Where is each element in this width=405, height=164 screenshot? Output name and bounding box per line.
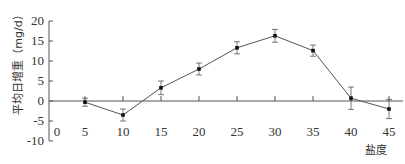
x-tick-label: 40: [345, 124, 358, 139]
data-point: [387, 107, 391, 111]
data-point: [83, 100, 87, 104]
x-tick-label: 35: [307, 124, 320, 139]
y-tick-label: 5: [38, 73, 45, 88]
x-tick-label: 10: [117, 124, 130, 139]
y-tick-label: -5: [33, 113, 44, 128]
x-axis: 051015202530354045: [49, 96, 403, 139]
y-axis: -10-505101520: [27, 13, 53, 148]
data-point: [197, 67, 201, 71]
x-tick-label: 25: [231, 124, 244, 139]
x-tick-label: 30: [269, 124, 282, 139]
y-tick-label: -10: [27, 133, 44, 148]
x-tick-label: 15: [155, 124, 168, 139]
x-tick-label: 20: [193, 124, 206, 139]
data-point: [273, 34, 277, 38]
x-tick-label: 0: [54, 124, 61, 139]
y-tick-label: 0: [38, 93, 45, 108]
y-tick-label: 10: [31, 53, 44, 68]
data-point: [349, 96, 353, 100]
x-tick-label: 5: [82, 124, 89, 139]
data-point: [235, 46, 239, 50]
data-point: [311, 49, 315, 53]
y-axis-title: 平均日增重（mg/d）: [11, 9, 25, 114]
x-tick-label: 45: [383, 124, 396, 139]
data-series: [82, 29, 392, 121]
data-point: [159, 86, 163, 90]
line-chart: -10-505101520 051015202530354045 平均日增重（m…: [0, 0, 405, 164]
x-axis-title: 盐度: [365, 143, 387, 157]
data-point: [121, 113, 125, 117]
y-tick-label: 20: [31, 13, 44, 28]
y-tick-label: 15: [31, 33, 44, 48]
